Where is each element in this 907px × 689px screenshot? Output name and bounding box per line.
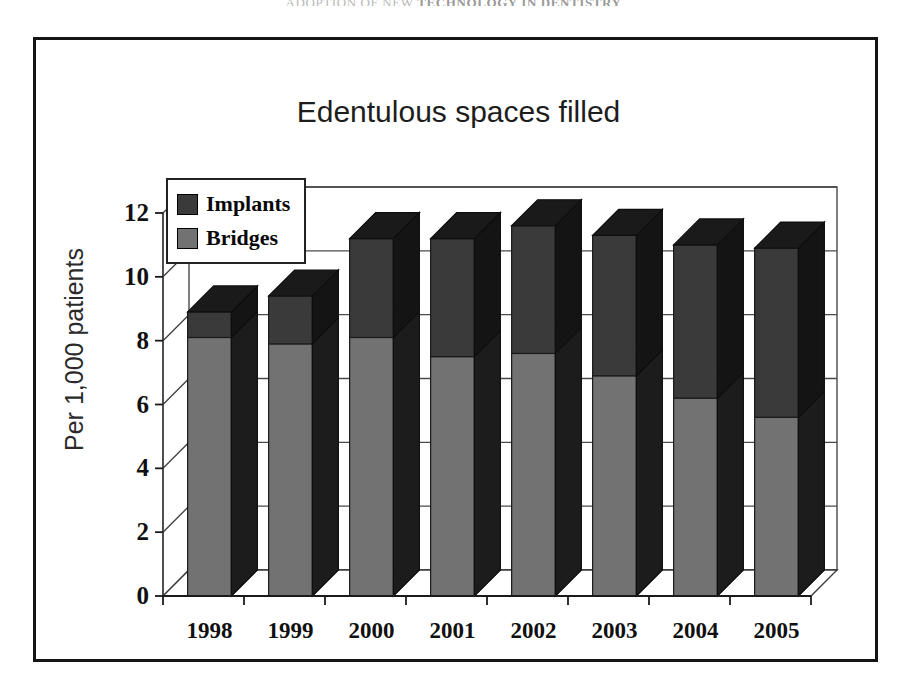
x-tick-label: 1999 — [246, 618, 336, 644]
axis-depth-connector — [163, 379, 189, 405]
legend-swatch-implants — [177, 194, 198, 215]
bar-column — [188, 286, 258, 596]
x-tick-label: 2003 — [570, 618, 660, 644]
y-tick-label: 12 — [109, 199, 149, 227]
axis-depth-connector — [163, 506, 189, 532]
x-tick-label: 2001 — [408, 618, 498, 644]
legend-label-bridges: Bridges — [206, 225, 278, 251]
axis-depth-connector — [163, 442, 189, 468]
figure-frame: Edentulous spaces filled Per 1,000 patie… — [33, 37, 878, 662]
running-header: ADOPTION OF NEW TECHNOLOGY IN DENTISTRY — [0, 0, 907, 6]
bar-column — [269, 270, 339, 596]
y-tick-label: 10 — [109, 263, 149, 291]
axis-depth-connector — [163, 315, 189, 341]
plot-area: 024681012 199819992000200120022003200420… — [36, 40, 881, 665]
bar-column — [755, 222, 825, 596]
y-tick-label: 2 — [109, 518, 149, 546]
x-tick-label: 1998 — [165, 618, 255, 644]
legend-label-implants: Implants — [206, 191, 290, 217]
running-header-text: ADOPTION OF NEW — [285, 0, 417, 6]
y-tick-label: 6 — [109, 391, 149, 419]
chart-legend: Implants Bridges — [166, 178, 306, 264]
y-tick-label: 8 — [109, 327, 149, 355]
x-tick-label: 2002 — [489, 618, 579, 644]
legend-item-implants: Implants — [177, 187, 304, 221]
legend-swatch-bridges — [177, 228, 198, 249]
y-tick-label: 4 — [109, 454, 149, 482]
legend-item-bridges: Bridges — [177, 221, 304, 255]
bar-column — [350, 213, 420, 596]
x-tick-label: 2000 — [327, 618, 417, 644]
chart-canvas — [36, 40, 881, 665]
y-tick-label: 0 — [109, 582, 149, 610]
bar-column — [674, 219, 744, 596]
running-header-text-bold: TECHNOLOGY IN DENTISTRY — [417, 0, 621, 6]
bar-column — [431, 213, 501, 596]
bar-column — [593, 209, 663, 596]
bar-column — [512, 200, 582, 596]
x-tick-label: 2004 — [651, 618, 741, 644]
x-tick-label: 2005 — [732, 618, 822, 644]
